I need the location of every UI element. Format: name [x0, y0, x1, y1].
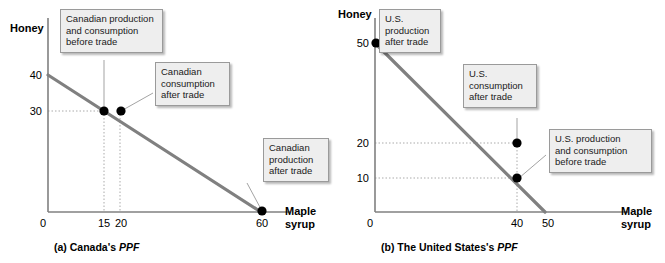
us-origin-label: 0 — [363, 217, 377, 229]
callout-line-3: after trade — [269, 165, 323, 177]
canada-x-axis-title-line1: Maple — [285, 205, 316, 218]
us-xtick-50: 50 — [537, 217, 559, 229]
us-point-consumption-after-trade — [512, 138, 521, 147]
canada-x-axis-title-line2: syrup — [285, 218, 315, 231]
canada-point-before-trade — [99, 106, 108, 115]
us-caption: (b) The United States's PPF — [381, 241, 518, 253]
canada-point-production-after-trade — [257, 206, 266, 215]
canada-point-consumption-after-trade — [116, 106, 125, 115]
us-ytick-10: 10 — [347, 172, 369, 184]
callout-line-2: consumption — [469, 80, 531, 92]
callout-canadian-production-consumption-before-trade: Canadian production and consumption befo… — [60, 9, 163, 53]
panel-canada-ppf: Honey Maple syrup 40 30 0 15 20 60 (a) C… — [0, 0, 333, 263]
callout-line-1: U.S. — [385, 13, 435, 25]
canada-origin-label: 0 — [36, 217, 50, 229]
callout-line-2: production — [269, 154, 323, 166]
us-ytick-20: 20 — [347, 137, 369, 149]
canada-xtick-60: 60 — [251, 217, 273, 229]
canada-guide-lines — [48, 111, 120, 212]
callout-line-2: and consumption — [555, 145, 646, 157]
canada-y-axis-title: Honey — [10, 22, 44, 35]
us-x-axis-title-line1: Maple — [621, 205, 652, 218]
canada-ytick-30: 30 — [20, 105, 42, 117]
callout-canadian-consumption-after-trade: Canadian consumption after trade — [155, 62, 230, 106]
callout-line-3: after trade — [385, 36, 435, 48]
canada-xtick-20: 20 — [110, 217, 132, 229]
us-x-axis-title-line2: syrup — [621, 218, 651, 231]
us-caption-ppf: PPF — [497, 241, 517, 253]
ppf-comparison-figure: Honey Maple syrup 40 30 0 15 20 60 (a) C… — [0, 0, 665, 263]
callout-line-1: Canadian — [161, 66, 224, 78]
panel-united-states-ppf: Honey Maple syrup 50 20 10 0 40 50 (b) T… — [333, 0, 665, 263]
us-y-axis-title: Honey — [338, 8, 372, 21]
callout-line-2: production — [385, 25, 435, 37]
callout-us-production-consumption-before-trade: U.S. production and consumption before t… — [549, 129, 652, 173]
us-ytick-50: 50 — [347, 37, 369, 49]
callout-line-2: consumption — [161, 78, 224, 90]
callout-line-3: after trade — [161, 89, 224, 101]
us-point-before-trade — [512, 173, 521, 182]
canada-caption-ppf: PPF — [119, 241, 139, 253]
callout-line-2: and consumption — [66, 25, 157, 37]
us-xtick-40: 40 — [506, 217, 528, 229]
callout-us-production-after-trade: U.S. production after trade — [379, 9, 441, 53]
callout-line-1: Canadian production — [66, 13, 157, 25]
callout-canadian-production-after-trade: Canadian production after trade — [263, 138, 329, 182]
callout-line-3: before trade — [555, 156, 646, 168]
callout-us-consumption-after-trade: U.S. consumption after trade — [463, 64, 537, 108]
us-guide-lines — [375, 143, 517, 212]
callout-line-1: Canadian — [269, 142, 323, 154]
callout-line-3: before trade — [66, 36, 157, 48]
callout-line-1: U.S. production — [555, 133, 646, 145]
canada-caption-text: (a) Canada's — [54, 241, 119, 253]
canada-ytick-40: 40 — [20, 69, 42, 81]
canada-caption: (a) Canada's PPF — [54, 241, 139, 253]
callout-line-1: U.S. — [469, 68, 531, 80]
us-caption-text: (b) The United States's — [381, 241, 497, 253]
callout-line-3: after trade — [469, 91, 531, 103]
